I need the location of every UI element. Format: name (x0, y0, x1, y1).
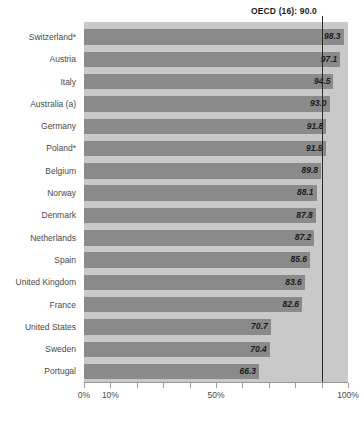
bar-row: 66.3 (84, 360, 348, 382)
bar-value-label: 87.2 (289, 230, 311, 246)
bar (84, 163, 321, 179)
x-axis-tick-label: 50% (207, 390, 224, 400)
x-axis-tick (269, 383, 270, 388)
bar-row: 91.5 (84, 137, 348, 159)
category-label: United Kingdom (0, 271, 80, 293)
oecd-reference-line (322, 16, 323, 384)
bar-value-label: 83.6 (280, 275, 302, 291)
x-axis-tick (295, 383, 296, 388)
bar-value-label: 91.8 (301, 119, 323, 135)
x-axis-tick (242, 383, 243, 388)
bar-row: 88.1 (84, 182, 348, 204)
bar-value-label: 70.7 (246, 319, 268, 335)
bar (84, 252, 310, 268)
x-axis-tick (322, 383, 323, 388)
bar-row: 83.6 (84, 271, 348, 293)
bar-value-label: 93.0 (305, 96, 327, 112)
bar (84, 230, 314, 246)
bar (84, 185, 317, 201)
oecd-reference-annotation: OECD (16): 90.0 (251, 6, 317, 16)
bar-value-label: 89.8 (296, 163, 318, 179)
bar-row: 82.6 (84, 294, 348, 316)
bar (84, 342, 270, 358)
x-axis-tick (163, 383, 164, 388)
plot-area: 98.397.194.593.091.891.589.888.187.887.2… (84, 22, 348, 382)
bar-value-label: 66.3 (234, 364, 256, 380)
bar-row: 94.5 (84, 71, 348, 93)
bar-row: 98.3 (84, 26, 348, 48)
bar-rows: 98.397.194.593.091.891.589.888.187.887.2… (84, 26, 348, 383)
bar-row: 70.7 (84, 316, 348, 338)
bar (84, 319, 271, 335)
bar-chart: OECD (16): 90.0 Switzerland*AustriaItaly… (0, 0, 363, 421)
bar (84, 52, 340, 68)
bar (84, 297, 302, 313)
category-label: Austria (0, 48, 80, 70)
bar-value-label: 85.6 (285, 252, 307, 268)
x-axis-tick-label: 10% (102, 390, 119, 400)
category-label: Italy (0, 71, 80, 93)
bar-value-label: 87.8 (291, 208, 313, 224)
category-label: Spain (0, 249, 80, 271)
category-label: Portugal (0, 360, 80, 382)
bar-row: 91.8 (84, 115, 348, 137)
bar (84, 208, 316, 224)
bar (84, 364, 259, 380)
x-axis-tick (84, 383, 85, 388)
bar-value-label: 88.1 (292, 185, 314, 201)
x-axis-tick (348, 383, 349, 388)
category-axis-labels: Switzerland*AustriaItalyAustralia (a)Ger… (0, 26, 80, 383)
bar (84, 141, 326, 157)
category-label: Switzerland* (0, 26, 80, 48)
bar (84, 119, 326, 135)
category-label: Denmark (0, 204, 80, 226)
bar-value-label: 91.5 (301, 141, 323, 157)
x-axis-tick (110, 383, 111, 388)
bar-value-label: 70.4 (245, 342, 267, 358)
category-label: Germany (0, 115, 80, 137)
category-label: Sweden (0, 338, 80, 360)
x-axis-tick (190, 383, 191, 388)
bar-row: 87.8 (84, 204, 348, 226)
bar (84, 96, 330, 112)
bar-row: 70.4 (84, 338, 348, 360)
category-label: France (0, 294, 80, 316)
bar (84, 74, 333, 90)
bar-row: 93.0 (84, 93, 348, 115)
bar-row: 87.2 (84, 227, 348, 249)
category-label: Australia (a) (0, 93, 80, 115)
bar-row: 89.8 (84, 160, 348, 182)
category-label: Poland* (0, 137, 80, 159)
x-axis-tick-label: 100% (337, 390, 359, 400)
bar-row: 85.6 (84, 249, 348, 271)
x-axis-tick (137, 383, 138, 388)
bar (84, 275, 305, 291)
category-label: Belgium (0, 160, 80, 182)
category-label: United States (0, 316, 80, 338)
x-axis-tick (216, 383, 217, 388)
category-label: Norway (0, 182, 80, 204)
x-axis-tick-label: 0% (78, 390, 90, 400)
bar-value-label: 94.5 (308, 74, 330, 90)
bar-value-label: 97.1 (315, 52, 337, 68)
bar-row: 97.1 (84, 48, 348, 70)
bar (84, 29, 344, 45)
category-label: Netherlands (0, 227, 80, 249)
bar-value-label: 82.6 (277, 297, 299, 313)
